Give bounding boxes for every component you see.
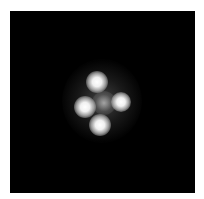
lensed-image-bottom bbox=[89, 114, 111, 136]
astronomical-image bbox=[10, 11, 195, 193]
lensed-image-top bbox=[86, 71, 108, 93]
lensed-image-right bbox=[111, 92, 131, 112]
lensed-image-left bbox=[74, 96, 96, 118]
